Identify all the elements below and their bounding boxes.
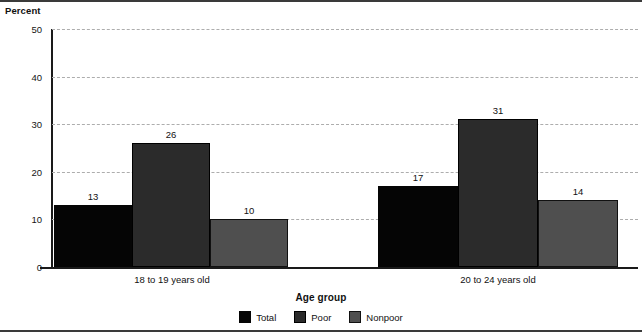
gridline-40 — [52, 77, 638, 78]
x-axis-line — [40, 267, 638, 269]
legend-label-nonpoor: Nonpoor — [366, 312, 402, 323]
y-tick-label-30: 30 — [2, 119, 42, 130]
gridline-30 — [52, 124, 638, 125]
bar-group2-nonpoor — [538, 200, 618, 267]
bar-value-group1-poor: 26 — [132, 129, 210, 140]
y-tick-label-50: 50 — [2, 24, 42, 35]
legend-item-nonpoor: Nonpoor — [349, 311, 402, 323]
legend-item-poor: Poor — [294, 311, 331, 323]
bar-value-group2-nonpoor: 14 — [538, 186, 618, 197]
legend-label-poor: Poor — [311, 312, 331, 323]
legend-label-total: Total — [256, 312, 276, 323]
legend-swatch-nonpoor-icon — [349, 311, 361, 323]
legend: Total Poor Nonpoor — [0, 311, 642, 323]
gridline-50 — [52, 29, 638, 30]
figure-top-rule — [0, 0, 642, 2]
bar-group1-poor — [132, 143, 210, 267]
y-tick-label-10: 10 — [2, 214, 42, 225]
legend-swatch-total-icon — [239, 311, 251, 323]
bar-group2-poor — [458, 119, 538, 267]
x-group-label-2: 20 to 24 years old — [378, 274, 618, 285]
legend-item-total: Total — [239, 311, 276, 323]
bar-chart: Percent 50 40 30 20 10 0 13 26 10 17 31 … — [0, 0, 642, 332]
x-axis-title: Age group — [0, 292, 642, 303]
bar-group2-total — [378, 186, 458, 267]
y-tick-label-20: 20 — [2, 166, 42, 177]
plot-area: 50 40 30 20 10 0 13 26 10 17 31 14 — [52, 29, 638, 267]
bar-value-group1-nonpoor: 10 — [210, 205, 288, 216]
y-tick-label-40: 40 — [2, 71, 42, 82]
bar-group1-nonpoor — [210, 219, 288, 267]
bar-value-group2-poor: 31 — [458, 105, 538, 116]
x-group-label-1: 18 to 19 years old — [54, 274, 290, 285]
y-tick-label-0: 0 — [2, 262, 42, 273]
bar-value-group1-total: 13 — [54, 191, 132, 202]
legend-swatch-poor-icon — [294, 311, 306, 323]
bar-group1-total — [54, 205, 132, 267]
bar-value-group2-total: 17 — [378, 172, 458, 183]
y-axis-title: Percent — [5, 5, 41, 16]
